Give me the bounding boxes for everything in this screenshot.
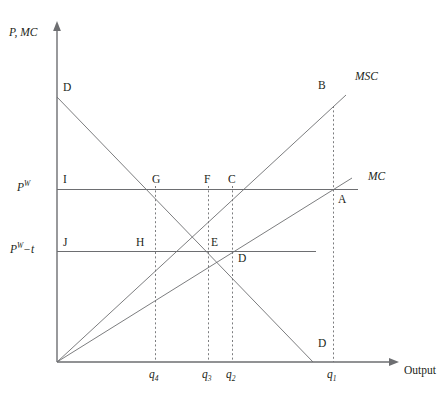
point-label-f: F <box>204 174 210 186</box>
mc-curve <box>57 178 352 362</box>
price-label-pw: PW <box>17 182 30 194</box>
tick-label-q3: q3 <box>202 369 212 381</box>
demand-curve <box>57 97 313 362</box>
price-label-pw-minus-t: PW−t <box>10 244 34 256</box>
diagram-canvas <box>0 0 439 403</box>
curve-label-msc: MSC <box>355 71 378 83</box>
y-axis-label: P, MC <box>9 27 38 39</box>
x-axis <box>57 358 399 366</box>
point-label-c: C <box>228 174 236 186</box>
tick-label-q2: q2 <box>226 369 236 381</box>
point-label-i: I <box>63 174 67 186</box>
point-label-a: A <box>338 194 346 206</box>
economics-tariff-diagram: P, MC Output PW PW−t MSC MC D D A B C D … <box>0 0 439 403</box>
point-label-d: D <box>238 253 246 265</box>
curve-label-mc: MC <box>368 171 385 183</box>
curve-label-demand-top: D <box>63 82 71 94</box>
point-label-g: G <box>152 174 160 186</box>
tick-label-q4: q4 <box>149 369 159 381</box>
msc-curve <box>57 95 346 362</box>
point-label-h: H <box>136 237 144 249</box>
point-label-e: E <box>211 237 218 249</box>
x-axis-label: Output <box>404 365 436 377</box>
tick-label-q1: q1 <box>327 369 337 381</box>
curve-label-demand-bottom: D <box>318 338 326 350</box>
point-label-b: B <box>318 80 326 92</box>
point-label-j: J <box>63 237 67 249</box>
y-axis <box>53 21 61 362</box>
